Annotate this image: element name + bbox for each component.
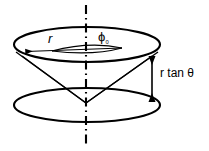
azimuth-subscript: ₀	[105, 35, 109, 45]
cone-surface	[16, 52, 158, 103]
radius-label: r	[48, 32, 52, 45]
height-label: r tan θ	[160, 67, 194, 79]
cone-diagram-figure: r ϕ₀ r tan θ	[0, 0, 209, 151]
azimuth-angle-label: ϕ₀	[98, 30, 109, 45]
